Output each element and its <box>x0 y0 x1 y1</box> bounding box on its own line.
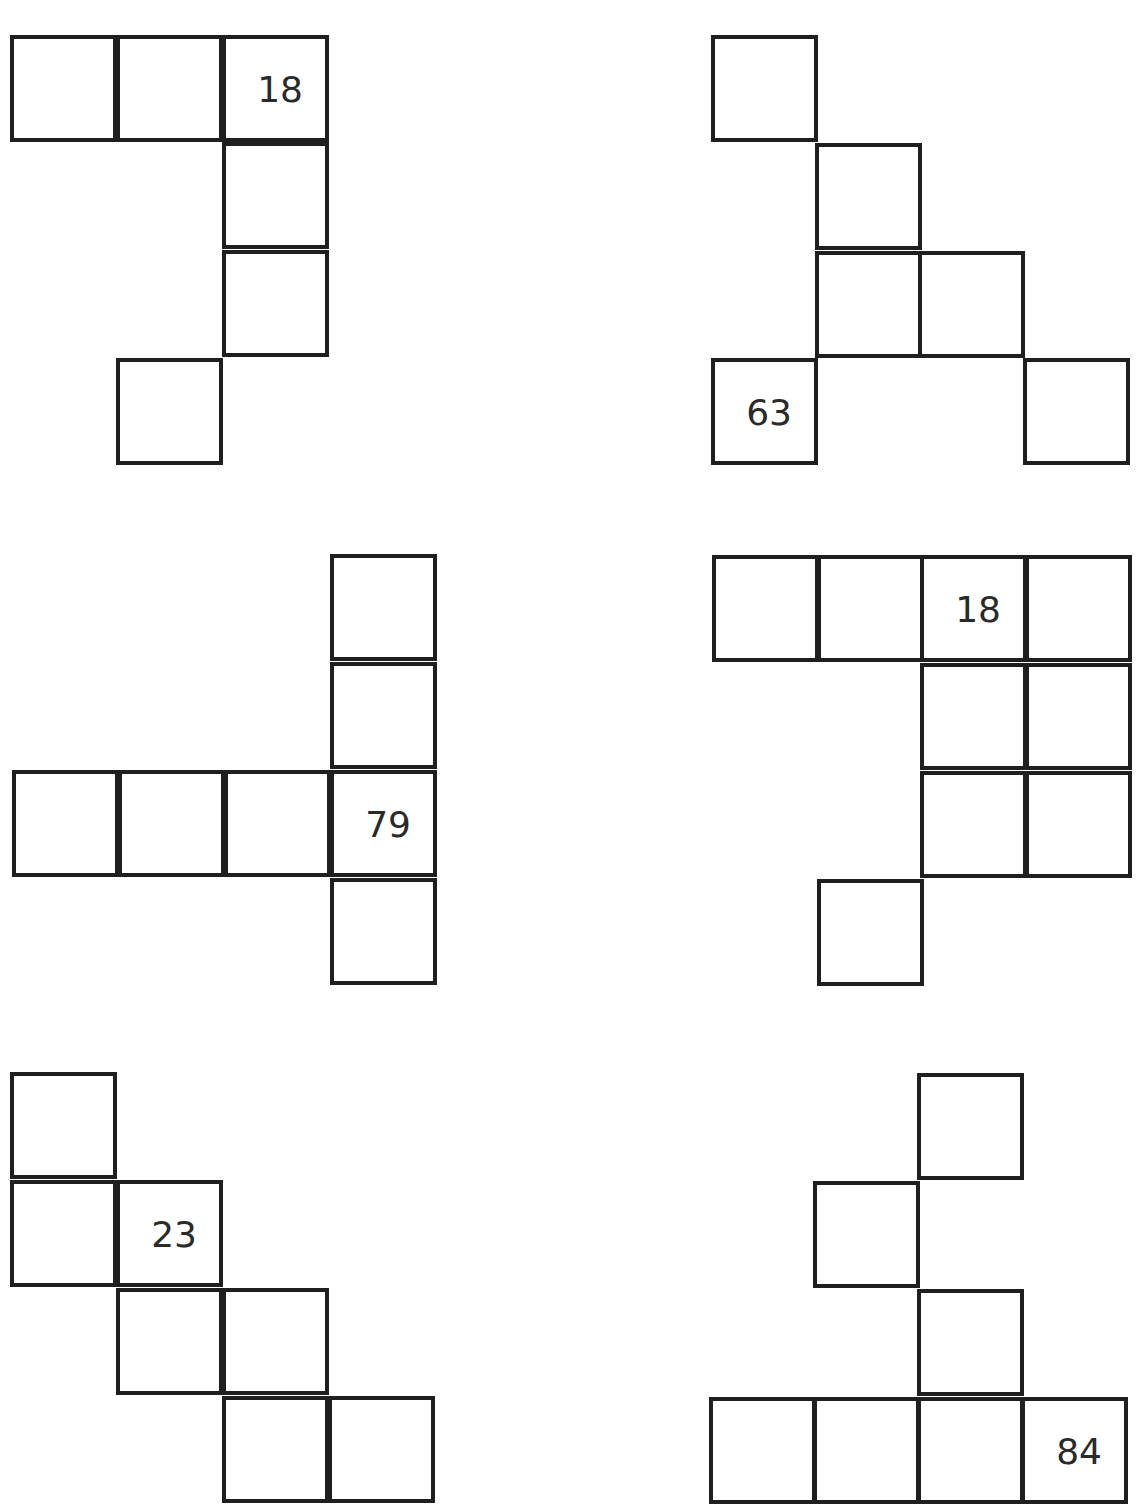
grid-cell <box>1025 771 1132 878</box>
cell-number: 18 <box>257 68 303 109</box>
grid-cell <box>817 555 924 662</box>
grid-cell <box>709 1397 816 1504</box>
grid-cell <box>10 35 117 142</box>
grid-cell <box>118 770 225 877</box>
grid-cell <box>222 142 329 249</box>
grid-cell <box>330 554 437 661</box>
grid-cell <box>920 663 1027 770</box>
grid-cell <box>712 555 819 662</box>
numbered-cell: 63 <box>711 358 818 465</box>
grid-cell <box>817 879 924 986</box>
grid-cell <box>813 1181 920 1288</box>
grid-cell <box>10 1072 117 1179</box>
numbered-cell: 18 <box>222 35 329 142</box>
grid-cell <box>224 770 331 877</box>
grid-cell <box>917 1397 1024 1504</box>
grid-cell <box>917 1289 1024 1396</box>
grid-cell <box>1025 663 1132 770</box>
grid-cell <box>330 878 437 985</box>
grid-cell <box>813 1397 920 1504</box>
grid-cell <box>1023 358 1130 465</box>
cell-number: 63 <box>746 391 792 432</box>
numbered-cell: 79 <box>330 770 437 877</box>
grid-cell <box>10 1180 117 1287</box>
cell-number: 79 <box>365 803 411 844</box>
cell-number: 23 <box>151 1213 197 1254</box>
grid-cell <box>711 35 818 142</box>
grid-cell <box>815 143 922 250</box>
grid-cell <box>918 251 1025 358</box>
grid-cell <box>330 662 437 769</box>
grid-cell <box>116 1288 223 1395</box>
numbered-cell: 18 <box>920 555 1027 662</box>
grid-cell <box>222 250 329 357</box>
grid-cell <box>116 358 223 465</box>
grid-cell <box>920 771 1027 878</box>
grid-cell <box>116 35 223 142</box>
puzzle-canvas: 186379182384 <box>0 0 1137 1512</box>
grid-cell <box>222 1288 329 1395</box>
grid-cell <box>815 251 922 358</box>
grid-cell <box>328 1396 435 1503</box>
grid-cell <box>917 1073 1024 1180</box>
cell-number: 84 <box>1056 1430 1102 1471</box>
grid-cell <box>12 770 119 877</box>
numbered-cell: 84 <box>1021 1397 1128 1504</box>
grid-cell <box>222 1396 329 1503</box>
cell-number: 18 <box>955 588 1001 629</box>
numbered-cell: 23 <box>116 1180 223 1287</box>
grid-cell <box>1025 555 1132 662</box>
